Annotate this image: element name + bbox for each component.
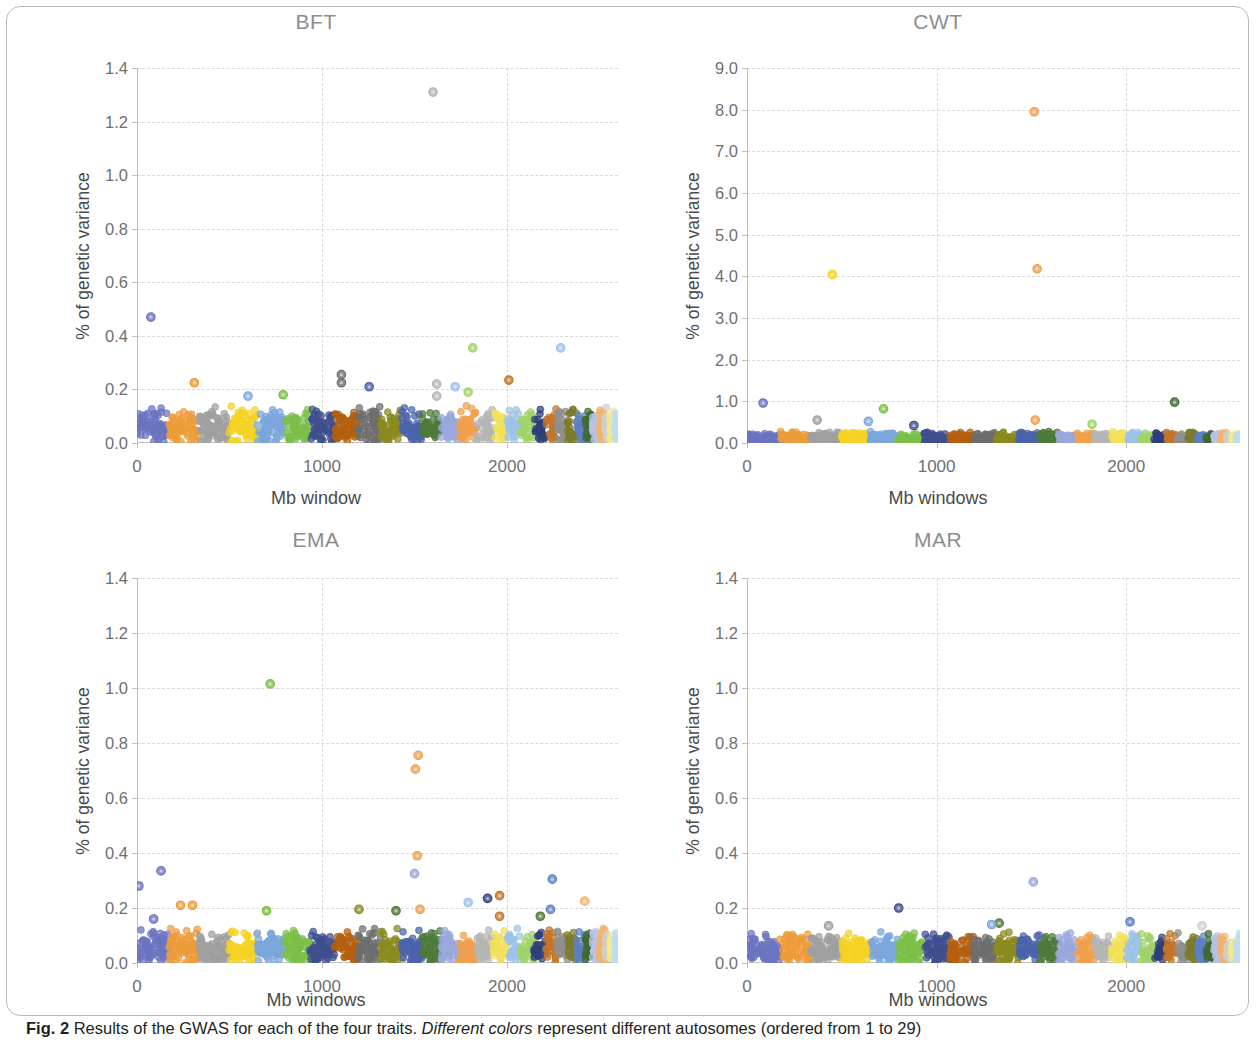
panel-cwt: CWT % of genetic varianceMb windows0.01.…	[628, 10, 1248, 515]
caption-emphasis: Different colors	[422, 1019, 533, 1037]
y-tick-label: 0.4	[105, 326, 128, 345]
panel-title-ema: EMA	[6, 528, 626, 552]
scatter-points-ema	[137, 578, 618, 963]
panel-ema: EMA % of genetic varianceMb windows0.00.…	[6, 528, 626, 1016]
x-tick-mark	[137, 963, 138, 968]
caption-part-2: represent different autosomes (ordered f…	[537, 1019, 921, 1037]
y-tick-label: 1.0	[105, 679, 128, 698]
x-axis-label-bft: Mb window	[6, 488, 626, 509]
y-tick-label: 2.0	[715, 350, 738, 369]
y-tick-label: 0.0	[105, 954, 128, 973]
x-tick-mark	[937, 963, 938, 968]
x-tick-mark	[937, 443, 938, 448]
x-tick-mark	[747, 963, 748, 968]
panel-title-bft: BFT	[6, 10, 626, 34]
y-tick-label: 0.6	[105, 789, 128, 808]
y-tick-label: 0.0	[715, 434, 738, 453]
scatter-points-mar	[747, 578, 1240, 963]
y-tick-label: 1.2	[105, 112, 128, 131]
panel-title-cwt: CWT	[628, 10, 1248, 34]
plot-area-bft	[137, 68, 618, 443]
x-tick-label: 2000	[488, 457, 526, 477]
y-tick-label: 0.0	[715, 954, 738, 973]
panel-mar: MAR % of genetic varianceMb windows0.00.…	[628, 528, 1248, 1016]
plot-area-mar	[747, 578, 1240, 963]
x-tick-label: 1000	[303, 457, 341, 477]
x-tick-label: 0	[742, 977, 751, 997]
x-tick-label: 2000	[1107, 977, 1145, 997]
y-tick-label: 7.0	[715, 142, 738, 161]
y-tick-label: 0.8	[105, 734, 128, 753]
x-tick-label: 0	[132, 457, 141, 477]
y-tick-label: 1.2	[105, 624, 128, 643]
x-axis-label-cwt: Mb windows	[628, 488, 1248, 509]
y-tick-label: 8.0	[715, 100, 738, 119]
scatter-points-cwt	[747, 68, 1240, 443]
figure-caption: Fig. 2 Results of the GWAS for each of t…	[26, 1019, 1226, 1038]
plot-area-ema	[137, 578, 618, 963]
y-tick-label: 1.2	[715, 624, 738, 643]
y-tick-label: 0.2	[105, 380, 128, 399]
y-tick-label: 9.0	[715, 59, 738, 78]
x-tick-label: 1000	[303, 977, 341, 997]
y-tick-label: 0.4	[105, 844, 128, 863]
x-tick-label: 1000	[918, 457, 956, 477]
panel-bft: BFT % of genetic varianceMb window0.00.2…	[6, 10, 626, 515]
x-tick-mark	[507, 443, 508, 448]
y-tick-label: 1.4	[105, 59, 128, 78]
y-tick-label: 0.6	[105, 273, 128, 292]
x-tick-label: 1000	[918, 977, 956, 997]
y-axis-label-bft: % of genetic variance	[73, 172, 94, 339]
y-tick-label: 5.0	[715, 225, 738, 244]
caption-part-1: Results of the GWAS for each of the four…	[74, 1019, 417, 1037]
y-tick-label: 6.0	[715, 184, 738, 203]
panel-title-mar: MAR	[628, 528, 1248, 552]
x-tick-label: 2000	[1107, 457, 1145, 477]
y-tick-label: 3.0	[715, 309, 738, 328]
y-tick-label: 4.0	[715, 267, 738, 286]
x-tick-mark	[322, 443, 323, 448]
x-tick-mark	[1126, 443, 1127, 448]
scatter-points-bft	[137, 68, 618, 443]
y-tick-label: 1.0	[715, 679, 738, 698]
y-tick-label: 0.4	[715, 844, 738, 863]
y-tick-label: 0.6	[715, 789, 738, 808]
y-tick-label: 1.0	[105, 166, 128, 185]
figure-number: Fig. 2	[26, 1019, 69, 1037]
x-tick-mark	[1126, 963, 1127, 968]
y-tick-label: 0.2	[105, 899, 128, 918]
y-tick-label: 0.8	[715, 734, 738, 753]
x-tick-label: 0	[742, 457, 751, 477]
x-tick-label: 0	[132, 977, 141, 997]
y-axis-label-mar: % of genetic variance	[683, 687, 704, 854]
y-axis-label-cwt: % of genetic variance	[683, 172, 704, 339]
x-tick-label: 2000	[488, 977, 526, 997]
plot-area-cwt	[747, 68, 1240, 443]
y-tick-label: 0.8	[105, 219, 128, 238]
x-tick-mark	[137, 443, 138, 448]
y-tick-label: 1.4	[715, 569, 738, 588]
figure-root: BFT % of genetic varianceMb window0.00.2…	[0, 0, 1257, 1052]
y-tick-label: 1.4	[105, 569, 128, 588]
y-tick-label: 0.2	[715, 899, 738, 918]
x-tick-mark	[507, 963, 508, 968]
x-tick-mark	[322, 963, 323, 968]
y-tick-label: 0.0	[105, 434, 128, 453]
y-tick-label: 1.0	[715, 392, 738, 411]
x-tick-mark	[747, 443, 748, 448]
y-axis-label-ema: % of genetic variance	[73, 687, 94, 854]
